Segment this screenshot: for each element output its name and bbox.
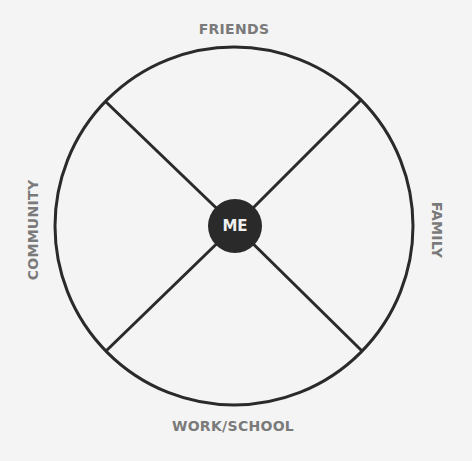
circle-map-diagram: ME FRIENDS FAMILY WORK/SCHOOL COMMUNITY: [0, 0, 472, 461]
center-label: ME: [208, 199, 262, 253]
section-label-work-school: WORK/SCHOOL: [0, 418, 466, 434]
section-label-family: FAMILY: [429, 202, 445, 259]
section-label-friends: FRIENDS: [0, 21, 468, 37]
section-label-community: COMMUNITY: [25, 180, 41, 281]
